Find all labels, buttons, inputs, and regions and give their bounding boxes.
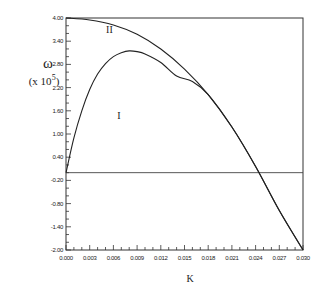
y-tick-label: 0.40 xyxy=(53,154,64,160)
x-tick-label: 0.021 xyxy=(225,255,239,261)
y-tick-label: 2.80 xyxy=(53,61,64,67)
x-tick-label: 0.027 xyxy=(273,255,287,261)
y-tick-label: -0.80 xyxy=(51,201,64,207)
x-tick-label: 0.009 xyxy=(130,255,144,261)
y-axis-title: ω xyxy=(43,55,53,71)
curve-labels: III xyxy=(106,24,120,120)
curves xyxy=(66,18,303,250)
plot-frame xyxy=(66,18,303,250)
y-tick-label: 3.40 xyxy=(53,38,64,44)
x-tick-label: 0.018 xyxy=(201,255,215,261)
x-tick-label: 0.024 xyxy=(249,255,263,261)
y-tick-label: 1.60 xyxy=(53,108,64,114)
y-tick-label: -0.20 xyxy=(51,177,64,183)
x-tick-label: 0.015 xyxy=(178,255,192,261)
chart: 4.003.402.802.201.601.000.40-0.20-0.80-1… xyxy=(0,0,323,298)
y-axis-ticks: 4.003.402.802.201.601.000.40-0.20-0.80-1… xyxy=(51,15,71,253)
y-axis-scale: (x 105) xyxy=(29,73,60,88)
x-tick-label: 0.003 xyxy=(83,255,97,261)
plot-border xyxy=(66,18,303,250)
x-axis-ticks: 0.0000.0030.0060.0090.0120.0150.0180.021… xyxy=(59,245,310,261)
x-tick-label: 0.000 xyxy=(59,255,73,261)
x-tick-label: 0.006 xyxy=(107,255,121,261)
curve-ii xyxy=(66,18,303,250)
y-tick-label: -1.40 xyxy=(51,224,64,230)
y-tick-label: 4.00 xyxy=(53,15,64,21)
curve-label: II xyxy=(106,24,113,35)
curve-i xyxy=(66,51,303,250)
x-axis-title: K xyxy=(186,273,194,284)
curve-label: I xyxy=(117,110,120,121)
y-tick-label: -2.00 xyxy=(51,247,64,253)
x-tick-label: 0.012 xyxy=(154,255,168,261)
x-tick-label: 0.030 xyxy=(296,255,310,261)
y-tick-label: 1.00 xyxy=(53,131,64,137)
